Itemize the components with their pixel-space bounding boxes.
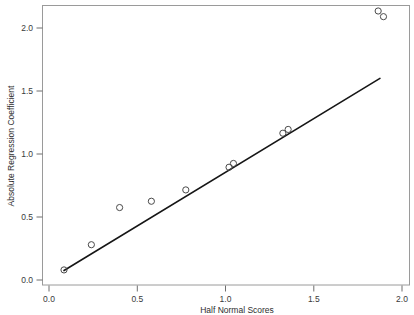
y-tick-label-1: 0.5 [21, 212, 33, 222]
y-tick-label-4: 2.0 [21, 23, 33, 33]
x-tick-label-0: 0.0 [43, 294, 55, 304]
y-axis-title: Absolute Regression Coefficient [6, 85, 16, 206]
x-tick-label-1: 0.5 [131, 294, 143, 304]
y-tick-label-0: 0.0 [21, 275, 33, 285]
x-tick-label-3: 1.5 [308, 294, 320, 304]
chart-container: 0.0 0.5 1.0 1.5 2.0 0.0 0.5 1.0 1.5 2.0 … [0, 0, 414, 315]
y-tick-label-3: 1.5 [21, 86, 33, 96]
x-tick-label-2: 1.0 [220, 294, 232, 304]
x-axis-title: Half Normal Scores [200, 305, 274, 315]
x-tick-label-4: 2.0 [396, 294, 408, 304]
half-normal-plot: 0.0 0.5 1.0 1.5 2.0 0.0 0.5 1.0 1.5 2.0 … [0, 0, 414, 315]
y-tick-label-2: 1.0 [21, 149, 33, 159]
